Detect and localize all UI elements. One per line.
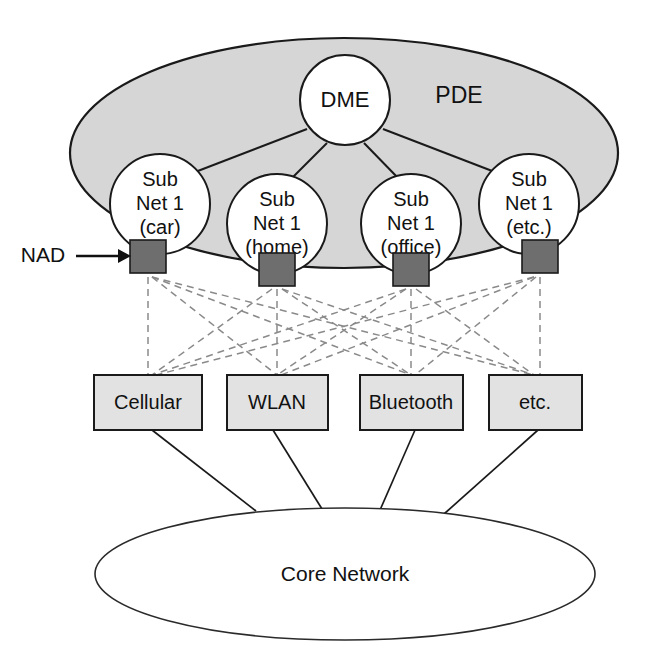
nad-square-car[interactable] (130, 240, 166, 273)
subnet-home-line2: Net 1 (253, 212, 301, 234)
access-label-bluetooth: Bluetooth (369, 391, 454, 413)
access-label-wlan: WLAN (248, 391, 306, 413)
mesh-car-bluetooth (152, 277, 411, 375)
subnet-etc-line3: (etc.) (506, 216, 552, 238)
subnet-car-line1: Sub (142, 168, 178, 190)
mesh-office-etc (416, 289, 534, 375)
subnet-car-line3: (car) (139, 216, 180, 238)
nad-label: NAD (21, 243, 65, 266)
subnet-etc-line1: Sub (511, 168, 547, 190)
nad-access-mesh (148, 277, 540, 375)
pde-label: PDE (435, 82, 482, 108)
nad-arrow-icon (76, 249, 131, 263)
nad-square-home[interactable] (259, 253, 295, 286)
nad-square-office[interactable] (393, 253, 429, 286)
mesh-home-bluetooth (282, 289, 411, 375)
subnet-etc-line2: Net 1 (505, 192, 553, 214)
mesh-etc-wlan (281, 277, 534, 375)
access-label-cellular: Cellular (114, 391, 182, 413)
core-link-etc (444, 430, 538, 514)
core-link-wlan (273, 430, 322, 509)
core-link-bluetooth (380, 430, 415, 510)
mesh-etc-cellular (156, 277, 534, 375)
nad-square-etc[interactable] (522, 240, 558, 273)
core-network-label: Core Network (281, 562, 410, 585)
subnet-home-line1: Sub (259, 188, 295, 210)
subnet-office-line2: Net 1 (387, 212, 435, 234)
subnet-car-line2: Net 1 (136, 192, 184, 214)
network-architecture-diagram: PDE DME (0, 0, 652, 670)
subnet-office-line1: Sub (393, 188, 429, 210)
diagram-canvas: PDE DME (0, 0, 652, 670)
mesh-office-wlan (277, 289, 406, 375)
mesh-home-cellular (152, 289, 272, 375)
dme-label: DME (321, 87, 370, 112)
core-links (152, 430, 538, 514)
access-label-etc: etc. (519, 391, 551, 413)
core-link-cellular (152, 430, 256, 511)
